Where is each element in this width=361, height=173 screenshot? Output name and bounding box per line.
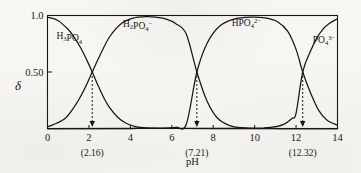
- species-label-HPO4(2-): HPO42−: [232, 17, 262, 29]
- x-tick-label-2: 2: [86, 132, 91, 143]
- pka-arrowhead-pka1: [90, 121, 95, 127]
- x-tick-label-4: 4: [128, 132, 134, 143]
- y-tick-label-0.50: 0.50: [25, 67, 43, 78]
- x-tick-label-0: 0: [45, 132, 50, 143]
- x-tick-label-14: 14: [332, 132, 343, 143]
- x-tick-label-10: 10: [249, 132, 260, 143]
- x-tick-label-6: 6: [169, 132, 174, 143]
- y-axis-label: δ: [15, 78, 22, 93]
- curve-H2PO4-: [48, 17, 338, 129]
- curve-HPO4(2-): [48, 17, 338, 129]
- pka-arrowhead-pka2: [194, 121, 199, 127]
- y-tick-label-1.0: 1.0: [30, 10, 43, 21]
- pka-arrowhead-pka3: [300, 121, 305, 127]
- species-label-PO4(3-): PO43−: [313, 34, 336, 46]
- species-label-H3PO4: H3PO4: [56, 31, 82, 44]
- speciation-diagram: 024681012140.501.0δpHH3PO4H2PO4−HPO42−PO…: [0, 0, 361, 173]
- pka-label-pka3: (12.32): [289, 148, 317, 159]
- curve-H3PO4: [48, 17, 338, 128]
- figure-container: 024681012140.501.0δpHH3PO4H2PO4−HPO42−PO…: [0, 0, 361, 173]
- x-tick-label-8: 8: [211, 132, 216, 143]
- x-tick-label-12: 12: [291, 132, 302, 143]
- plot-frame: [48, 16, 338, 129]
- pka-label-pka1: (2.16): [81, 148, 104, 159]
- species-label-H2PO4-: H2PO4−: [123, 19, 153, 32]
- pka-label-pka2: (7.21): [185, 148, 208, 159]
